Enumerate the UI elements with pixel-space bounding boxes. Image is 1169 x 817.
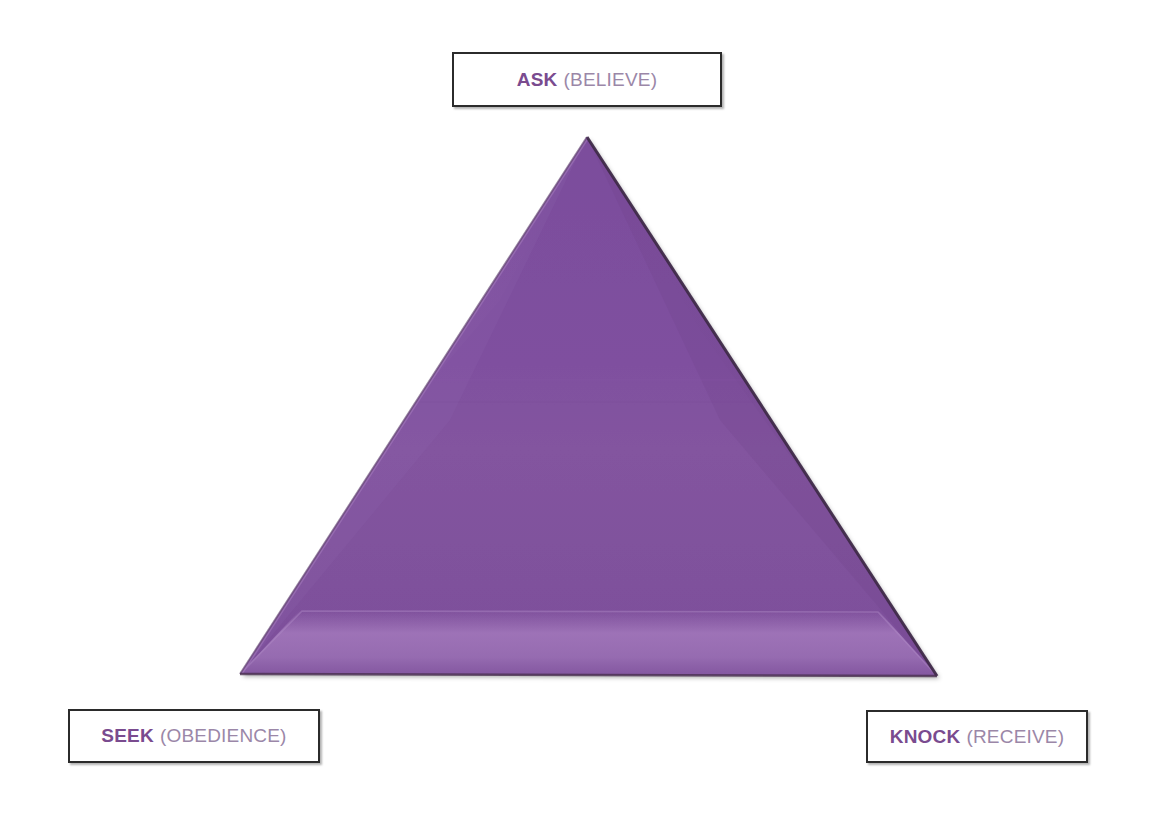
label-box-seek: SEEK (OBEDIENCE)	[68, 709, 320, 763]
label-knock-keyword: KNOCK	[890, 726, 961, 748]
label-ask-keyword: ASK	[517, 69, 558, 91]
label-seek-parenthetical: (OBEDIENCE)	[160, 725, 287, 747]
triangle-shape	[0, 0, 1169, 817]
label-seek-keyword: SEEK	[101, 725, 154, 747]
label-box-ask: ASK (BELIEVE)	[452, 52, 722, 107]
label-box-knock: KNOCK (RECEIVE)	[866, 710, 1088, 763]
diagram-canvas: ASK (BELIEVE) SEEK (OBEDIENCE) KNOCK (RE…	[0, 0, 1169, 817]
label-knock-parenthetical: (RECEIVE)	[966, 726, 1064, 748]
label-ask-parenthetical: (BELIEVE)	[564, 69, 658, 91]
